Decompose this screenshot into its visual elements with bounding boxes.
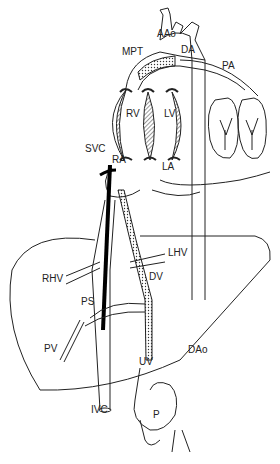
label-lv: LV: [164, 109, 176, 119]
label-rv: RV: [126, 109, 140, 119]
lungs: [208, 98, 266, 159]
label-ivc: IVC: [91, 405, 108, 415]
label-dv: DV: [149, 272, 163, 282]
label-da: DA: [181, 45, 195, 55]
heart: [105, 89, 270, 197]
fetal-circulation-diagram: AAoMPTDAPARVLVSVCRALALHVRHVDVPSPVDAoUVIV…: [0, 0, 280, 464]
label-svc: SVC: [85, 144, 106, 154]
label-dao: DAo: [188, 345, 207, 355]
label-uv: UV: [139, 357, 153, 367]
ductus-venosus: [118, 190, 152, 360]
label-p: P: [153, 410, 160, 420]
label-rhv: RHV: [42, 274, 63, 284]
ivc: [92, 165, 116, 412]
label-la: LA: [162, 162, 174, 172]
label-pa: PA: [222, 61, 235, 71]
placenta: [134, 368, 190, 452]
label-ra: RA: [112, 155, 126, 165]
label-mpt: MPT: [122, 47, 143, 57]
diagram-drawing: [0, 0, 280, 464]
label-aao: AAo: [157, 29, 176, 39]
label-lhv: LHV: [168, 248, 187, 258]
label-ps: PS: [81, 297, 94, 307]
label-pv: PV: [44, 344, 57, 354]
